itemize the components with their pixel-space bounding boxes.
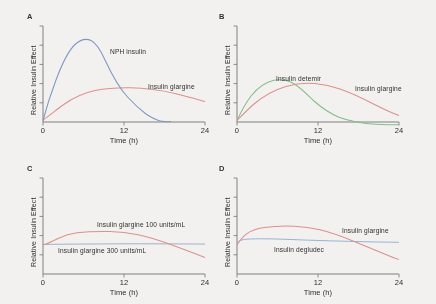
panel-c-plot	[0, 152, 218, 304]
panel-b-label-insulin-glargine: Insulin glargine	[355, 85, 402, 92]
panel-a-label-nph-insulin: NPH insulin	[110, 48, 146, 55]
panel-a-label-insulin-glargine: Insulin glargine	[148, 83, 195, 90]
panel-a-xtick-12: 12	[117, 126, 131, 135]
panel-a-plot	[0, 0, 218, 152]
panel-c-xtick-12: 12	[117, 278, 131, 287]
insulin-action-profiles-figure: A Relative Insulin Effect	[0, 0, 436, 304]
panel-c-label-glargine-100: Insulin glargine 100 units/mL	[97, 221, 185, 228]
panel-d: D Relative Insulin Effect Insulin glargi…	[218, 152, 436, 304]
panel-c-x-axis-title: Time (h)	[84, 288, 164, 297]
panel-a-x-axis-title: Time (h)	[84, 136, 164, 145]
panel-b: B Relative Insulin Effect Insulin detemi…	[218, 0, 436, 152]
panel-b-xtick-0: 0	[230, 126, 244, 135]
panel-a: A Relative Insulin Effect	[0, 0, 218, 152]
panel-b-xtick-24: 24	[392, 126, 406, 135]
panel-d-curve-insulin-degludec	[237, 239, 399, 243]
panel-d-x-axis-title: Time (h)	[278, 288, 358, 297]
panel-b-label-insulin-detemir: Insulin detemir	[276, 75, 321, 82]
panel-a-curve-nph-insulin	[43, 39, 171, 121]
panel-c-label-glargine-300: Insulin glargine 300 units/mL	[58, 247, 146, 254]
panel-d-label-insulin-glargine: Insulin glargine	[342, 227, 389, 234]
panel-d-xtick-24: 24	[392, 278, 406, 287]
panel-d-xtick-12: 12	[311, 278, 325, 287]
panel-c-xtick-0: 0	[36, 278, 50, 287]
panel-c: C Relative Insulin Effect Insulin glargi…	[0, 152, 218, 304]
panel-c-xtick-24: 24	[198, 278, 212, 287]
panel-a-xtick-0: 0	[36, 126, 50, 135]
panel-b-xtick-12: 12	[311, 126, 325, 135]
panel-a-xtick-24: 24	[198, 126, 212, 135]
panel-b-x-axis-title: Time (h)	[278, 136, 358, 145]
panel-d-xtick-0: 0	[230, 278, 244, 287]
panel-c-curve-glargine-300	[43, 244, 205, 245]
panel-d-label-insulin-degludec: Insulin degludec	[274, 246, 324, 253]
